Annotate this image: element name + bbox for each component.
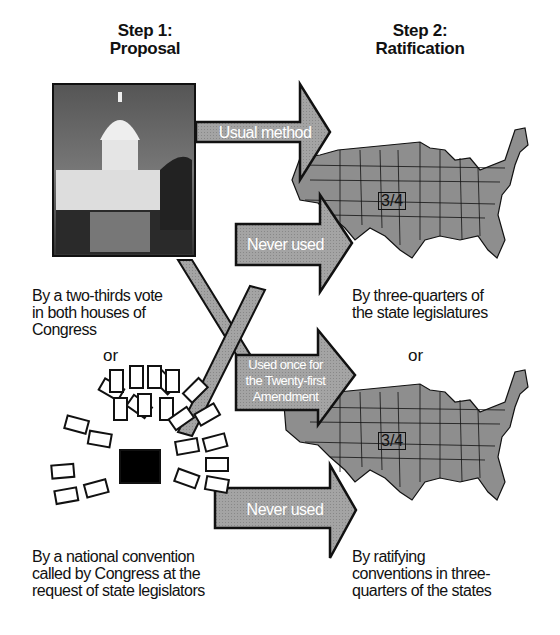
arrow-label-usual: Usual method [210, 125, 320, 140]
caption-line: By ratifying [352, 548, 491, 565]
caption-line: By a national convention [32, 548, 205, 565]
caption-line: in both houses of [32, 304, 163, 321]
caption-line: conventions in three- [352, 565, 491, 582]
caption-line: quarters of the states [352, 582, 491, 599]
map-top-fraction: 3/4 [378, 192, 406, 210]
ratification-caption-conventions: By ratifying conventions in three- quart… [352, 548, 491, 599]
caption-line: the state legislatures [352, 304, 488, 321]
caption-line: By a two-thirds vote [32, 287, 163, 304]
or-left: or [103, 346, 118, 366]
convention-seating [51, 366, 229, 504]
caption-line: request of state legislators [32, 582, 205, 599]
caption-line: By three-quarters of [352, 287, 488, 304]
caption-line: Congress [32, 321, 163, 338]
or-right: or [408, 346, 423, 366]
ratification-caption-legislatures: By three-quarters of the state legislatu… [352, 287, 488, 321]
arrow-label-used-once: Used once for the Twenty-first Amendment [238, 357, 333, 405]
used-once-line2: the Twenty-first [238, 373, 333, 389]
arrow-label-never-lower: Never used [230, 502, 340, 517]
map-bottom-fraction: 3/4 [378, 432, 406, 450]
used-once-line3: Amendment [238, 389, 333, 405]
arrow-label-never-upper: Never used [238, 237, 333, 252]
used-once-line1: Used once for [238, 357, 333, 373]
proposal-caption-congress: By a two-thirds vote in both houses of C… [32, 287, 163, 338]
capitol-photo [53, 84, 195, 256]
caption-line: called by Congress at the [32, 565, 205, 582]
proposal-caption-convention: By a national convention called by Congr… [32, 548, 205, 599]
